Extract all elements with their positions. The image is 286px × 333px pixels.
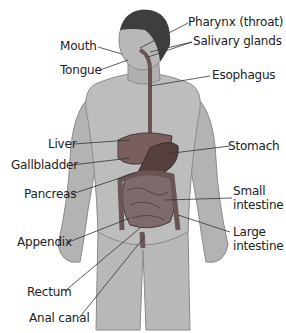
label-small-intestine-1: Small bbox=[233, 185, 265, 198]
label-pharynx: Pharynx (throat) bbox=[188, 16, 283, 29]
label-tongue: Tongue bbox=[60, 64, 102, 77]
label-pancreas: Pancreas bbox=[24, 188, 76, 201]
label-salivary-glands: Salivary glands bbox=[193, 35, 282, 48]
digestive-system-diagram: Pharynx (throat) Salivary glands Mouth T… bbox=[0, 0, 286, 333]
label-stomach: Stomach bbox=[228, 140, 280, 153]
label-small-intestine-2: intestine bbox=[233, 199, 284, 212]
label-appendix: Appendix bbox=[17, 236, 72, 249]
label-liver: Liver bbox=[48, 138, 76, 151]
label-gallbladder: Gallbladder bbox=[11, 159, 78, 172]
label-large-intestine-2: intestine bbox=[233, 240, 284, 253]
label-esophagus: Esophagus bbox=[212, 69, 275, 82]
label-mouth: Mouth bbox=[60, 40, 97, 53]
label-rectum: Rectum bbox=[27, 286, 72, 299]
label-large-intestine-1: Large bbox=[233, 226, 266, 239]
label-anal-canal: Anal canal bbox=[29, 312, 90, 325]
